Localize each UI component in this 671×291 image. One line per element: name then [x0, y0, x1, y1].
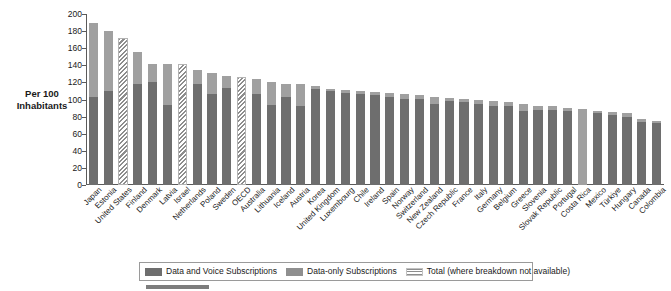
y-axis-tick-label: 120	[58, 78, 82, 86]
bar-segment-data	[519, 104, 528, 111]
y-axis-tick-label: 100	[58, 96, 82, 104]
bar-segment-voice	[356, 94, 365, 185]
bar-israel[interactable]	[178, 64, 187, 185]
bar-denmark[interactable]	[148, 64, 157, 185]
bar-segment-voice	[311, 89, 320, 185]
bar-segment-data	[504, 102, 513, 106]
bar-segment-data	[474, 100, 483, 103]
y-axis-tick-label: 20	[58, 164, 82, 172]
bar-germany[interactable]	[489, 101, 498, 185]
legend-label-data: Data-only Subscriptions	[307, 267, 397, 276]
bar-korea[interactable]	[311, 86, 320, 185]
bar-finland[interactable]	[133, 52, 142, 185]
bar-switzerland[interactable]	[415, 95, 424, 185]
legend-label-total: Total (where breakdown not available)	[427, 267, 570, 276]
y-axis-tick-label: 80	[58, 113, 82, 121]
bar-czech-republic[interactable]	[445, 98, 454, 185]
bar-hungary[interactable]	[622, 113, 631, 185]
bar-canada[interactable]	[637, 119, 646, 185]
bar-poland[interactable]	[207, 73, 216, 185]
bar-slovak-republic[interactable]	[548, 106, 557, 185]
bar-segment-voice	[622, 117, 631, 185]
bar-segment-voice	[148, 82, 157, 185]
bar-segment-data	[89, 23, 98, 97]
bar-italy[interactable]	[474, 100, 483, 185]
bar-segment-data	[148, 64, 157, 82]
bar-portugal[interactable]	[563, 108, 572, 185]
bar-segment-voice	[400, 99, 409, 185]
bar-norway[interactable]	[400, 94, 409, 185]
bar-segment-data	[356, 91, 365, 94]
legend-item-data: Data-only Subscriptions	[286, 267, 397, 276]
bar-estonia[interactable]	[104, 31, 113, 185]
bar-segment-data	[563, 108, 572, 111]
bar-segment-data	[608, 112, 617, 115]
bar-segment-voice	[489, 106, 498, 185]
bar-sweden[interactable]	[222, 76, 231, 185]
bar-iceland[interactable]	[281, 84, 290, 185]
bar-segment-voice	[533, 110, 542, 185]
bar-costa-rica[interactable]	[578, 109, 587, 185]
bar-t-rkiye[interactable]	[608, 112, 617, 185]
bar-segment-voice	[193, 84, 202, 185]
bar-oecd[interactable]	[237, 77, 246, 185]
bar-segment-voice	[548, 110, 557, 185]
x-axis-category-labels: JapanEstoniaUnited StatesFinlandDenmarkL…	[86, 186, 664, 258]
bar-belgium[interactable]	[504, 102, 513, 185]
bar-segment-voice	[474, 104, 483, 185]
bar-segment-data	[252, 79, 261, 94]
bar-luxembourg[interactable]	[341, 90, 350, 185]
bar-latvia[interactable]	[163, 64, 172, 185]
bar-segment-data	[326, 89, 335, 91]
bar-segment-voice	[89, 97, 98, 185]
bar-segment-total	[237, 77, 246, 185]
bar-segment-voice	[281, 97, 290, 185]
bar-segment-voice	[504, 106, 513, 185]
bar-lithuania[interactable]	[267, 82, 276, 185]
y-axis-tick-labels: 200180160140120100806040200	[58, 14, 82, 185]
y-axis-tick-label: 160	[58, 44, 82, 52]
bar-segment-data	[104, 31, 113, 91]
bar-segment-voice	[370, 95, 379, 185]
bar-united-kingdom[interactable]	[326, 89, 335, 185]
bar-segment-voice	[104, 91, 113, 185]
legend-swatch-total-icon	[406, 268, 423, 276]
bar-segment-data	[593, 111, 602, 114]
bar-segment-data	[296, 84, 305, 105]
bar-united-states[interactable]	[118, 38, 127, 185]
y-axis-tick-label: 180	[58, 27, 82, 35]
bar-segment-total	[178, 64, 187, 185]
bar-austria[interactable]	[296, 84, 305, 185]
bar-segment-voice	[296, 106, 305, 186]
bar-segment-data	[415, 95, 424, 98]
bar-segment-data	[622, 113, 631, 116]
bar-segment-voice	[459, 102, 468, 185]
footer-rule	[146, 285, 209, 289]
bar-mexico[interactable]	[593, 111, 602, 185]
bar-chile[interactable]	[356, 91, 365, 185]
bar-segment-data	[267, 82, 276, 105]
y-axis-tick-label: 0	[58, 181, 82, 189]
bar-segment-data	[459, 99, 468, 102]
bar-netherlands[interactable]	[193, 70, 202, 185]
legend-label-voice: Data and Voice Subscriptions	[166, 267, 277, 276]
bar-segment-data	[193, 70, 202, 84]
bar-segment-data	[489, 101, 498, 106]
bar-segment-data	[637, 119, 646, 122]
bar-segment-voice	[267, 105, 276, 185]
bar-greece[interactable]	[519, 104, 528, 185]
bar-new-zealand[interactable]	[430, 97, 439, 185]
bar-segment-voice	[133, 84, 142, 185]
bar-segment-data	[341, 90, 350, 93]
bar-ireland[interactable]	[370, 92, 379, 185]
bar-japan[interactable]	[89, 23, 98, 185]
y-axis-tick-label: 60	[58, 130, 82, 138]
bar-segment-voice	[163, 105, 172, 185]
bar-france[interactable]	[459, 99, 468, 185]
bar-spain[interactable]	[385, 93, 394, 185]
bar-segment-data	[133, 52, 142, 84]
bar-colombia[interactable]	[652, 121, 661, 185]
bar-australia[interactable]	[252, 79, 261, 185]
legend-item-total: Total (where breakdown not available)	[406, 267, 570, 276]
bar-slovenia[interactable]	[533, 106, 542, 186]
